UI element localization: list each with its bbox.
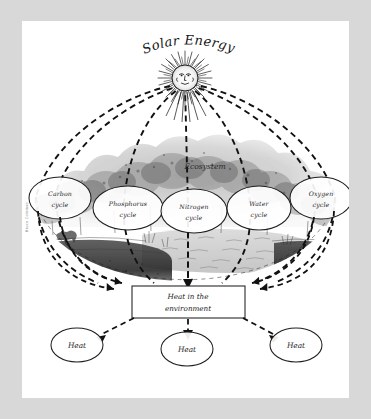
cycle-label-carbon-line2: cycle (52, 201, 69, 209)
arrowhead-far-right (259, 283, 268, 292)
cycle-label-nitrogen-line1: Nitrogen (178, 203, 208, 211)
cycle-node-water[interactable]: Water cycle (227, 186, 291, 230)
ecosystem-energy-diagram: Solar Energy Ecosystem Carbon cycle Phos… (22, 21, 349, 398)
image-credit: Bruce Coleman (25, 202, 29, 232)
cycle-node-oxygen[interactable]: Oxygen cycle (290, 177, 349, 219)
arrowhead-right (251, 277, 260, 286)
heat-node-center[interactable]: Heat (161, 332, 213, 366)
page-title: Solar Energy (140, 32, 237, 56)
ecosystem-label: Ecosystem (183, 162, 225, 171)
heat-node-left[interactable]: Heat (51, 328, 103, 362)
heat-box-line1: Heat in the (167, 292, 209, 301)
cycle-node-phosphorus[interactable]: Phosphorus cycle (93, 186, 163, 230)
heat-node-right[interactable]: Heat (270, 328, 322, 362)
heat-box-rect[interactable] (132, 286, 245, 318)
cycle-node-nitrogen[interactable]: Nitrogen cycle (161, 189, 227, 233)
cycle-label-nitrogen-line2: cycle (186, 214, 203, 222)
cycle-label-oxygen-line1: Oxygen (309, 190, 334, 198)
cycle-ellipse-water[interactable] (227, 186, 291, 230)
outflow-arrow-right (243, 318, 275, 335)
heat-box-line2: environment (165, 304, 211, 313)
heat-label-center: Heat (177, 345, 196, 354)
figure-page: Solar Energy Ecosystem Carbon cycle Phos… (22, 21, 349, 398)
heat-environment-box[interactable]: Heat in the environment (132, 286, 245, 318)
figure-outer-frame: Solar Energy Ecosystem Carbon cycle Phos… (0, 0, 371, 419)
outflow-arrow-left (100, 318, 134, 335)
cycle-label-phosphorus-line1: Phosphorus (108, 200, 147, 208)
cycle-label-water-line2: cycle (251, 211, 268, 219)
cycle-ellipse-phosphorus[interactable] (93, 186, 163, 230)
heat-label-right: Heat (286, 341, 305, 350)
diagram-title: Solar Energy (134, 32, 244, 59)
heat-output-nodes: Heat Heat Heat (51, 328, 322, 366)
heat-label-left: Heat (67, 341, 86, 350)
cycle-label-carbon-line1: Carbon (48, 190, 72, 197)
arrowhead-left (114, 277, 123, 286)
cycle-label-phosphorus-line2: cycle (120, 211, 137, 219)
cycle-label-oxygen-line2: cycle (313, 201, 330, 209)
cycle-label-water-line1: Water (249, 200, 269, 207)
arrowhead-far-left (106, 283, 115, 292)
soil-left (22, 240, 172, 291)
cycle-ellipse-oxygen[interactable] (290, 177, 349, 219)
cycle-ellipse-nitrogen[interactable] (161, 189, 227, 233)
